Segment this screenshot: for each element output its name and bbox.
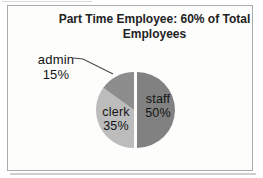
pie-label-admin-name: admin xyxy=(26,52,86,67)
pie-label-staff: staff 50% xyxy=(130,93,186,120)
pie-chart xyxy=(0,0,263,178)
scan-artifact-line-top xyxy=(2,1,92,2)
pie-label-clerk-value: 35% xyxy=(88,120,144,134)
pie-label-staff-name: staff xyxy=(130,93,186,107)
chart-image: Part Time Employee: 60% of Total Employe… xyxy=(0,0,263,178)
pie-label-admin: admin 15% xyxy=(26,52,86,82)
pie-label-staff-value: 50% xyxy=(130,107,186,121)
pie-label-admin-value: 15% xyxy=(26,67,86,82)
scan-artifact-line xyxy=(10,173,256,175)
